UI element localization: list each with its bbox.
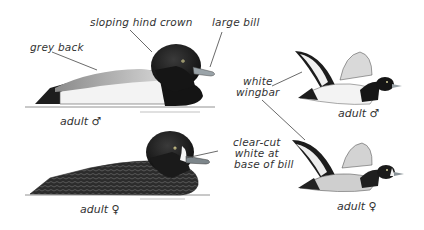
caption-male-swimming: adult ♂ [60, 115, 101, 128]
caption-female-swimming: adult ♀ [80, 203, 120, 216]
label-white-wingbar: white wingbar [236, 76, 280, 98]
label-clear-cut-line3: base of bill [234, 159, 294, 170]
label-white-wingbar-line2: wingbar [236, 87, 280, 98]
male-flying-duck [295, 51, 402, 104]
female-swimming-duck [25, 131, 210, 199]
male-swimming-duck [25, 44, 215, 112]
label-sloping-hind-crown: sloping hind crown [90, 17, 193, 28]
label-large-bill: large bill [212, 17, 260, 28]
caption-female-flying: adult ♀ [337, 200, 377, 213]
label-grey-back: grey back [30, 42, 84, 53]
label-clear-cut-white: clear-cut white at base of bill [220, 137, 294, 170]
female-flying-duck [292, 140, 404, 192]
caption-male-flying: adult ♂ [338, 107, 379, 120]
